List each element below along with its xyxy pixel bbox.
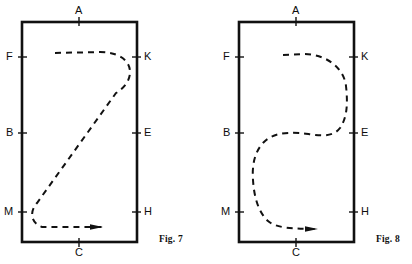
fig7-label-F: F — [6, 51, 13, 62]
figures-canvas — [0, 0, 412, 264]
fig7-arrow-head — [90, 224, 103, 230]
fig7-path — [32, 52, 130, 227]
fig7-label-C: C — [75, 247, 83, 258]
fig8-label-E: E — [361, 127, 368, 138]
fig7-label-B: B — [6, 127, 13, 138]
fig7-label-A: A — [75, 5, 82, 16]
fig8-path — [253, 54, 347, 229]
fig8-label-A: A — [292, 5, 299, 16]
fig8-label-B: B — [223, 127, 230, 138]
fig7-caption: Fig. 7 — [159, 234, 183, 244]
fig7-frame — [22, 22, 137, 242]
fig7-label-H: H — [144, 206, 152, 217]
figure-sheet: A C F B M K E H A C F B M K E H Fig. 7 F… — [0, 0, 412, 264]
fig8-label-K: K — [361, 51, 368, 62]
fig8-arrow-head — [305, 226, 318, 232]
figure-7 — [18, 17, 141, 247]
fig8-label-C: C — [292, 247, 300, 258]
fig7-label-M: M — [4, 206, 13, 217]
fig8-label-M: M — [221, 206, 230, 217]
fig8-caption: Fig. 8 — [376, 234, 400, 244]
figure-8 — [235, 17, 358, 247]
fig8-label-F: F — [223, 51, 230, 62]
fig8-label-H: H — [361, 206, 369, 217]
fig7-label-E: E — [144, 127, 151, 138]
fig7-label-K: K — [144, 51, 151, 62]
